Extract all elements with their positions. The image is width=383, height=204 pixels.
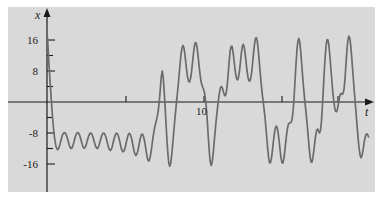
y-axis-arrow-icon [44, 8, 51, 17]
y-tick-label-8: 8 [10, 66, 38, 77]
chart-svg [8, 7, 375, 192]
y-axis-title: x [35, 9, 40, 21]
x-axis-title: t [365, 106, 368, 118]
y-tick-label-neg16: -16 [10, 159, 38, 170]
plot-area: 16 8 -8 -16 10 x t [8, 7, 375, 192]
x-axis-ticks [126, 96, 338, 102]
x-tick-label-10: 10 [196, 106, 207, 117]
axes-group [8, 8, 374, 192]
figure-container: 16 8 -8 -16 10 x t [0, 0, 383, 204]
y-tick-label-16: 16 [10, 35, 38, 46]
series-line-x-of-t [47, 33, 369, 166]
y-tick-label-neg8: -8 [10, 128, 38, 139]
